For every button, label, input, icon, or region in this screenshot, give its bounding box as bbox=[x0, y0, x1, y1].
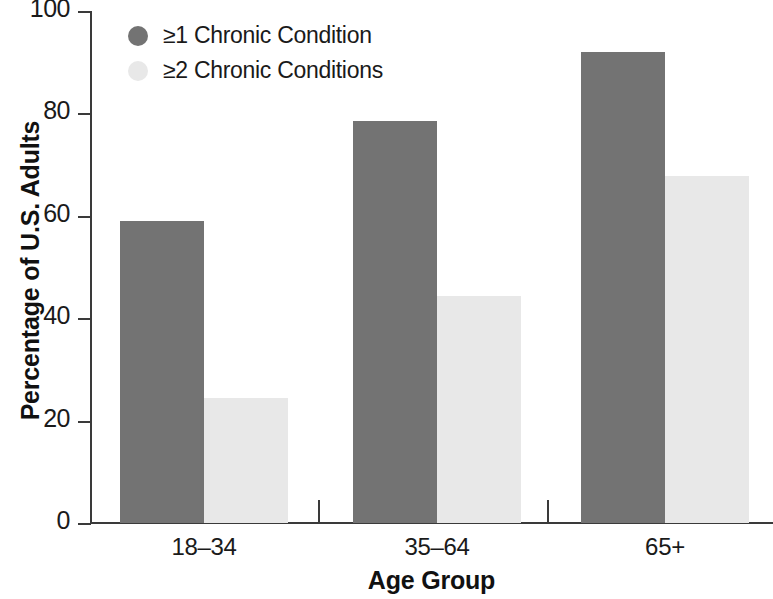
legend-marker-circle-icon bbox=[128, 26, 148, 46]
y-axis-title-container: Percentage of U.S. Adults bbox=[12, 0, 52, 530]
y-tick-label: 0 bbox=[10, 506, 70, 535]
x-tick-label: 65+ bbox=[585, 533, 745, 561]
y-tick-label: 80 bbox=[10, 96, 70, 125]
legend-label: ≥2 Chronic Conditions bbox=[163, 57, 383, 84]
legend-marker-circle-icon bbox=[128, 61, 148, 81]
bar-1834-series1 bbox=[120, 221, 204, 523]
y-tick-label: 40 bbox=[10, 301, 70, 330]
bar-3564-series2 bbox=[437, 296, 521, 523]
legend-item: ≥2 Chronic Conditions bbox=[128, 53, 383, 88]
bar-65-series2 bbox=[665, 176, 749, 523]
bar-1834-series2 bbox=[204, 398, 288, 523]
y-tick-label: 20 bbox=[10, 404, 70, 433]
legend-label: ≥1 Chronic Condition bbox=[163, 22, 372, 49]
chart-legend: ≥1 Chronic Condition≥2 Chronic Condition… bbox=[128, 18, 383, 88]
x-tick-mark bbox=[547, 500, 549, 523]
x-tick-label: 35–64 bbox=[357, 533, 517, 561]
y-tick-mark bbox=[78, 523, 91, 525]
x-axis-title: Age Group bbox=[90, 566, 773, 595]
bar-65-series1 bbox=[581, 52, 665, 523]
y-tick-label: 60 bbox=[10, 199, 70, 228]
x-tick-label: 18–34 bbox=[124, 533, 284, 561]
chart-figure: Percentage of U.S. Adults 100806040200 1… bbox=[0, 0, 773, 599]
x-tick-mark bbox=[318, 500, 320, 523]
y-axis-title: Percentage of U.S. Adults bbox=[16, 0, 45, 551]
legend-item: ≥1 Chronic Condition bbox=[128, 18, 383, 53]
bar-3564-series1 bbox=[353, 121, 437, 523]
y-tick-label: 100 bbox=[10, 0, 70, 23]
